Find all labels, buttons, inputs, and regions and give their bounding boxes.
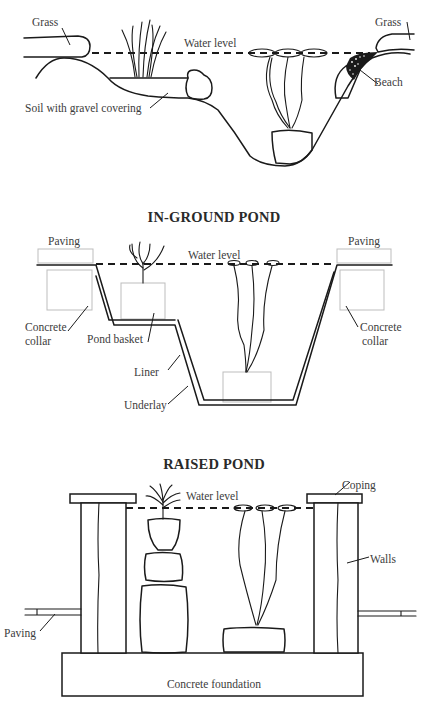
- coping-left: [70, 494, 136, 503]
- title-in-ground-pond: IN-GROUND POND: [148, 209, 281, 225]
- label-pond-basket: Pond basket: [87, 333, 144, 345]
- pond-basket-box: [121, 283, 165, 319]
- soil-leader: [150, 93, 168, 108]
- lily-pads-icon: [228, 261, 279, 373]
- grass-right-shape: [376, 34, 414, 52]
- label-collar-right-1: Concrete: [360, 321, 402, 333]
- underlay-leader: [168, 386, 188, 404]
- paving-right: [358, 611, 416, 616]
- grass-left-shape: [24, 36, 90, 57]
- label-collar-left-1: Concrete: [25, 321, 67, 333]
- marginal-plant-icon: [122, 20, 166, 77]
- natural-pond-diagram: Grass Water level Grass Beach Soil with …: [24, 16, 414, 166]
- liner-leader: [168, 355, 180, 370]
- title-raised-pond: RAISED POND: [163, 456, 265, 472]
- label-paving: Paving: [4, 627, 36, 640]
- lily-pads-icon: [234, 505, 296, 625]
- label-soil: Soil with gravel covering: [25, 102, 142, 115]
- raised-pond-diagram: RAISED POND: [4, 456, 416, 696]
- label-grass-right: Grass: [375, 16, 402, 28]
- lily-stone-block: [223, 628, 285, 653]
- label-beach: Beach: [374, 76, 403, 88]
- pond-diagrams: Grass Water level Grass Beach Soil with …: [0, 0, 428, 710]
- rock-shape: [186, 70, 212, 99]
- label-water-level: Water level: [186, 490, 238, 502]
- paving-left: [25, 609, 81, 615]
- marginal-plant-icon: [130, 242, 164, 283]
- paving-right-box: [337, 249, 391, 263]
- paving-left-box: [38, 249, 93, 263]
- grass-right-leader: [407, 22, 410, 40]
- lily-pads-icon: [249, 49, 327, 128]
- paving-leader: [40, 614, 55, 631]
- lily-basket-box: [223, 372, 271, 402]
- concrete-collar-right: [340, 270, 384, 310]
- concrete-collar-left: [47, 270, 92, 310]
- label-water-level: Water level: [184, 37, 236, 49]
- label-collar-left-2: collar: [25, 335, 51, 347]
- label-paving-right: Paving: [348, 235, 380, 248]
- in-ground-pond-diagram: IN-GROUND POND: [25, 209, 402, 412]
- stone-block-lower: [140, 585, 188, 653]
- label-liner: Liner: [134, 366, 159, 378]
- wall-left: [81, 503, 126, 653]
- marginal-plant-icon: [146, 484, 180, 519]
- label-walls: Walls: [370, 553, 396, 565]
- coping-right: [307, 494, 362, 503]
- label-grass-left: Grass: [32, 16, 59, 28]
- stone-block-upper: [145, 553, 183, 582]
- planter-pot: [148, 519, 180, 551]
- lily-basket-shape: [272, 130, 312, 164]
- label-collar-right-2: collar: [362, 335, 388, 347]
- label-foundation: Concrete foundation: [167, 678, 261, 690]
- label-water-level: Water level: [188, 249, 240, 261]
- label-paving-left: Paving: [48, 235, 80, 248]
- wall-right: [314, 503, 358, 653]
- label-underlay: Underlay: [124, 399, 167, 412]
- label-coping: Coping: [342, 479, 376, 492]
